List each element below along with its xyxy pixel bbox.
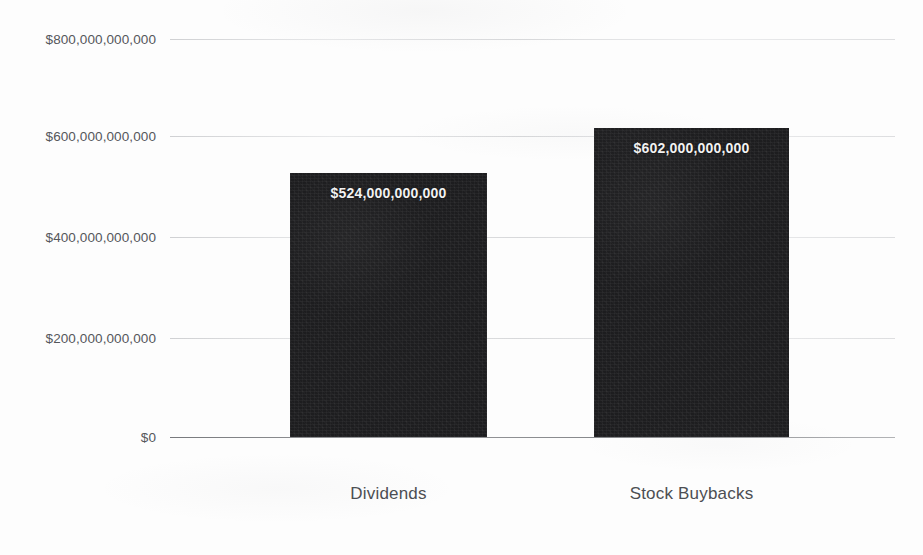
y-axis-tick-label-600b: $600,000,000,000 <box>46 129 156 144</box>
gridline-800b <box>170 39 895 40</box>
y-axis-tick-label-0: $0 <box>141 430 156 445</box>
bar-value-label-stock-buybacks: $602,000,000,000 <box>594 140 789 156</box>
y-axis-tick-label-400b: $400,000,000,000 <box>46 230 156 245</box>
bar-chart: $800,000,000,000 $600,000,000,000 $400,0… <box>0 0 923 555</box>
y-axis-tick-label-200b: $200,000,000,000 <box>46 331 156 346</box>
bar-value-label-dividends: $524,000,000,000 <box>290 185 487 201</box>
y-axis-tick-label-800b: $800,000,000,000 <box>46 32 156 47</box>
x-axis-label-stock-buybacks: Stock Buybacks <box>543 484 840 504</box>
bar-dividends[interactable]: $524,000,000,000 <box>290 173 487 437</box>
axis-baseline <box>170 437 895 438</box>
x-axis-label-dividends: Dividends <box>240 484 537 504</box>
bar-stock-buybacks[interactable]: $602,000,000,000 <box>594 128 789 437</box>
plot-area: $524,000,000,000 $602,000,000,000 <box>170 39 895 437</box>
